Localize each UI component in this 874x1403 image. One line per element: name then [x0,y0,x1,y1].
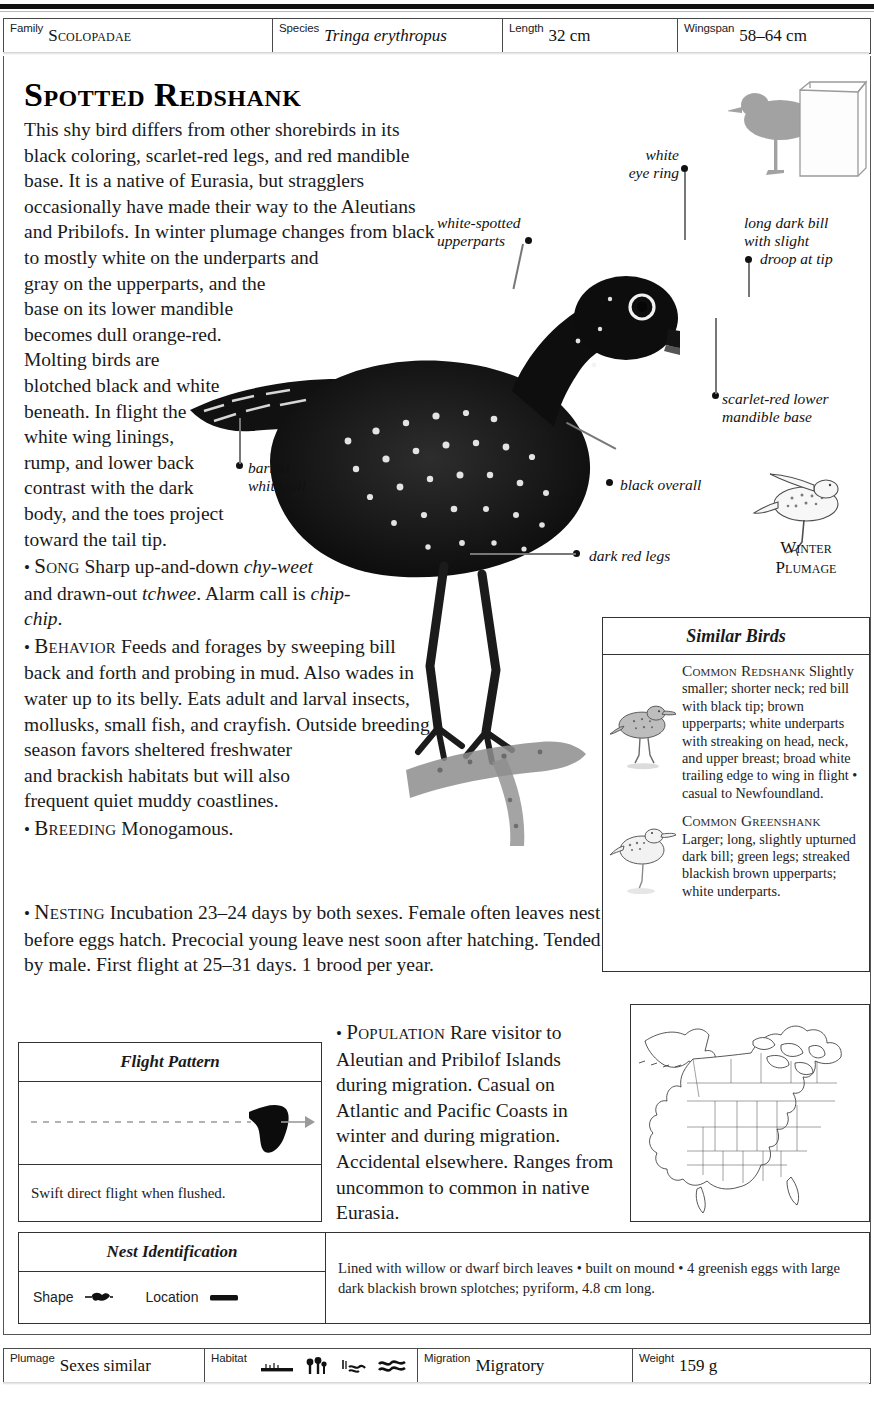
header-field-wingspan: Wingspan58–64 cm [677,19,868,53]
header-field-label: Wingspan [684,22,734,34]
bottom-field-plumage: PlumageSexes similar [4,1349,204,1383]
callout-leader-tail [239,418,241,464]
callout-line: scarlet-red lower [722,390,829,407]
callout-line: mandible base [722,408,812,425]
callout-dot-upperparts [525,237,532,244]
field-guide-page: FamilyScolopadaeSpeciesTringa erythropus… [0,0,874,1403]
nest-identification-right: Lined with willow or dwarf birch leaves … [326,1233,869,1323]
nesting-section: • Nesting Incubation 23–24 days by both … [24,900,624,978]
size-comparison-icon [728,78,868,182]
callout-line: upperparts [437,232,505,249]
similar-bird-text-block: Common Greenshank Larger; long, slightly… [682,812,861,900]
callout-leader-legs [470,553,576,555]
waves-icon [377,1358,407,1374]
breeding-heading: Breeding [34,816,116,840]
nest-identification-left: Nest Identification Shape Location [19,1233,326,1323]
common-greenshank-thumbnail [610,812,676,900]
bullet-nesting: • [24,904,34,923]
top-rule-hairline [0,11,874,12]
callout-leader-bill [748,263,750,297]
callout-line: white tail [248,477,306,494]
top-rule [0,4,874,9]
page-title: Spotted Redshank [24,76,301,114]
nest-identification-title: Nest Identification [19,1233,325,1272]
callout-line: with slight [744,232,809,249]
flight-pattern-box: Flight Pattern Swift direct flight when … [18,1042,322,1222]
song-heading: Song [34,554,79,578]
winter-label-line: Winter [780,538,831,557]
nest-location-icon [208,1290,240,1304]
nest-shape-icon [83,1290,113,1304]
callout-scarlet-red-mandible: scarlet-red lower mandible base [722,390,872,426]
behavior-heading: Behavior [34,634,116,658]
nest-identification-keys: Shape Location [19,1272,325,1322]
similar-birds-title: Similar Birds [603,618,869,655]
similar-birds-box: Similar Birds Common Re [602,617,870,972]
flight-pattern-caption: Swift direct flight when flushed. [19,1165,321,1221]
header-shadow [3,52,869,55]
callout-dark-red-legs: dark red legs [589,547,699,565]
callout-line: dark red legs [589,547,670,564]
nest-identification-text: Lined with willow or dwarf birch leaves … [338,1258,857,1298]
bullet-song: • [24,558,34,577]
similar-bird-entry: Common Greenshank Larger; long, slightly… [603,802,869,900]
range-map [630,1004,870,1222]
header-field-length: Length32 cm [502,19,677,53]
bullet-breeding: • [24,820,34,839]
similar-bird-description: Slightly smaller; shorter neck; red bill… [682,663,857,801]
winter-plumage-label: Winter Plumage [744,538,868,578]
callout-line: eye ring [629,164,679,181]
callout-barred-white-tail: barred white tail [248,459,338,495]
nest-identification-box: Nest Identification Shape Location Lined… [18,1232,870,1324]
bottom-field-label: Migration [424,1352,470,1364]
bottom-field-value: 159 g [679,1356,717,1376]
legs-and-branch-illustration [400,470,600,850]
callout-dot-eye-ring [681,165,688,172]
population-text: Rare visitor to Aleutian and Pribilof Is… [336,1022,613,1223]
callout-white-eye-ring: white eye ring [613,146,679,182]
bottom-field-migration: MigrationMigratory [417,1349,632,1383]
callout-line: black overall [620,476,701,493]
shoreline-icon [260,1358,294,1374]
bullet-population: • [336,1024,346,1043]
callout-black-overall: black overall [620,476,730,494]
nesting-text: Incubation 23–24 days by both sexes. Fem… [24,902,601,975]
bottom-field-value: Migratory [475,1356,544,1376]
callout-leader-mandible [715,318,717,394]
bottom-field-habitat: Habitat [204,1349,417,1383]
bottom-field-label: Weight [639,1352,674,1364]
callout-line: barred [248,459,290,476]
nest-location-label: Location [145,1289,198,1305]
bottom-field-weight: Weight159 g [632,1349,868,1383]
header-field-value: Tringa erythropus [324,26,447,46]
callout-line: long dark bill [744,214,828,231]
similar-bird-text-block: Common Redshank Slightly smaller; shorte… [682,662,861,802]
callout-dot-black-overall [606,479,613,486]
breeding-text: Monogamous. [121,818,233,839]
callout-white-spotted-upperparts: white-spotted upperparts [437,214,557,250]
header-field-label: Species [279,22,319,34]
header-field-label: Length [509,22,544,34]
callout-leader-eye-ring [684,172,686,240]
flight-pattern-title: Flight Pattern [19,1043,321,1082]
header-field-value: 58–64 cm [739,26,807,46]
callout-long-dark-bill: long dark bill with slight droop at tip [744,214,874,268]
bottom-shadow [3,1382,869,1385]
bottom-field-value: Sexes similar [60,1356,151,1376]
header-field-label: Family [10,22,43,34]
callout-dot-bill [745,256,752,263]
callout-line: white [645,146,679,163]
header-field-value: Scolopadae [48,26,131,46]
callout-line: droop at tip [760,250,833,267]
population-heading: Population [346,1020,445,1044]
winter-label-line: Plumage [776,558,837,577]
flight-pattern-diagram [19,1082,321,1165]
habitat-icon-group [260,1357,407,1375]
header-field-family: FamilyScolopadae [4,19,272,53]
bottom-field-label: Plumage [10,1352,55,1364]
similar-bird-name: Common Redshank [682,662,805,679]
callout-line: white-spotted [437,214,521,231]
bottom-field-label: Habitat [211,1352,247,1364]
similar-bird-name: Common Greenshank [682,812,821,829]
population-section: • Population Rare visitor to Aleutian an… [336,1020,614,1226]
